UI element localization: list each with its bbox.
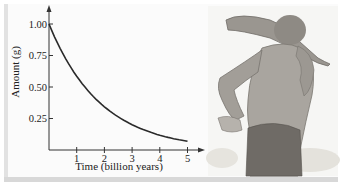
decay-chart: 12345 0.250.500.751.00 Time (billion yea… bbox=[0, 0, 341, 188]
y-tick-label: 0.50 bbox=[29, 82, 47, 93]
caveman-illustration bbox=[206, 6, 340, 176]
y-tick-label: 1.00 bbox=[29, 19, 47, 30]
x-axis-title: Time (billion years) bbox=[75, 160, 163, 173]
decay-curve bbox=[49, 24, 188, 141]
y-axis-arrow-icon bbox=[47, 5, 52, 12]
y-axis-title: Amount (g) bbox=[9, 46, 22, 98]
x-tick-label: 5 bbox=[185, 153, 190, 164]
y-tick-label: 0.25 bbox=[29, 113, 47, 124]
x-axis-arrow-icon bbox=[198, 148, 205, 153]
y-tick-label: 0.75 bbox=[29, 50, 47, 61]
axes bbox=[47, 5, 206, 153]
